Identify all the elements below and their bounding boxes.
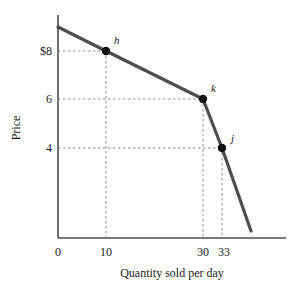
x-tick-label-30: 30 [197,245,209,259]
data-point-k-marker [199,95,207,103]
x-tick-label-0: 0 [55,245,61,259]
chart-figure: h k j $8 6 4 0 10 30 33 Quantity sold pe… [0,0,308,292]
x-tick-label-33: 33 [218,245,230,259]
data-point-j-marker [218,144,226,152]
y-tick-label-8: $8 [40,44,52,58]
data-point-label-h: h [114,34,120,46]
y-tick-label-4: 4 [46,141,52,155]
y-tick-label-6: 6 [46,92,52,106]
data-point-h-marker [102,47,110,55]
x-axis-title: Quantity sold per day [120,266,224,280]
x-tick-label-10: 10 [100,245,112,259]
y-axis-title: Price [9,116,23,141]
chart-svg: h k j $8 6 4 0 10 30 33 Quantity sold pe… [0,0,308,292]
